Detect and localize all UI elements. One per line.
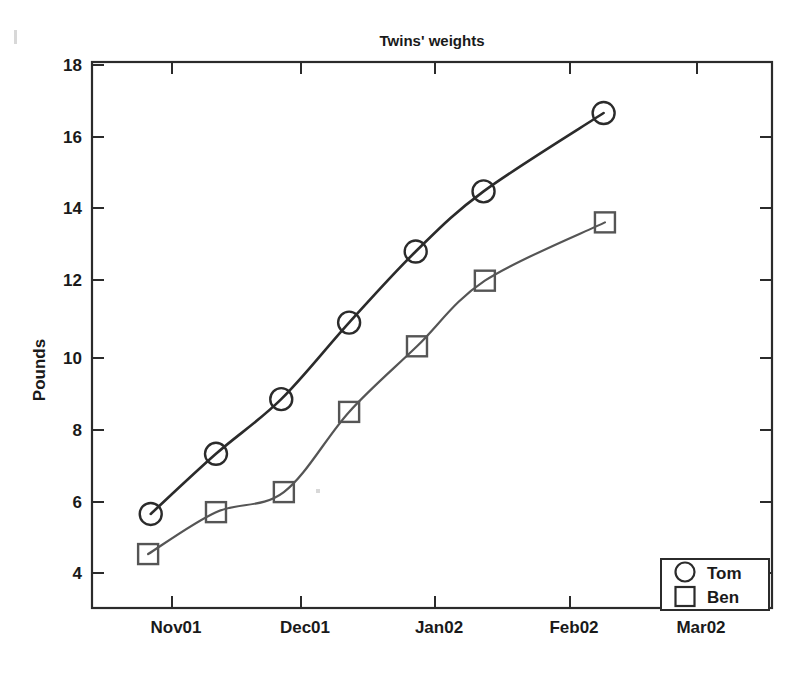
x-tick-labels: Nov01 Dec01 Jan02 Feb02 Mar02 — [150, 618, 725, 637]
y-tick-labels: 18 16 14 12 10 8 6 4 — [63, 56, 82, 583]
series-ben — [138, 212, 615, 564]
chart-figure: Twins' weights — [0, 0, 810, 679]
legend-label-ben: Ben — [707, 588, 739, 607]
y-tick-label: 8 — [73, 421, 82, 440]
chart-title: Twins' weights — [380, 32, 485, 49]
x-tick-label: Mar02 — [676, 618, 725, 637]
y-tick-label: 4 — [73, 564, 83, 583]
plot-area-frame — [92, 62, 772, 608]
series-tom — [140, 102, 615, 525]
x-tick-label: Jan02 — [415, 618, 463, 637]
scan-artifact-speck — [14, 30, 17, 44]
y-axis-label: Pounds — [30, 339, 49, 401]
series-line-tom — [151, 113, 604, 514]
twins-weights-chart: Twins' weights — [0, 0, 810, 679]
legend-label-tom: Tom — [707, 564, 742, 583]
chart-legend[interactable]: Tom Ben — [661, 559, 769, 610]
y-axis-ticks — [92, 65, 772, 573]
x-tick-label: Nov01 — [150, 618, 201, 637]
scan-artifact-speck-2 — [316, 489, 320, 493]
x-tick-label: Dec01 — [280, 618, 330, 637]
series-line-ben — [148, 222, 605, 554]
y-tick-label: 12 — [63, 271, 82, 290]
series-layer — [138, 102, 615, 564]
x-tick-label: Feb02 — [549, 618, 598, 637]
y-tick-label: 18 — [63, 56, 82, 75]
y-tick-label: 6 — [73, 493, 82, 512]
y-tick-label: 16 — [63, 128, 82, 147]
y-tick-label: 14 — [63, 199, 82, 218]
x-axis-ticks — [172, 62, 697, 608]
y-tick-label: 10 — [63, 349, 82, 368]
